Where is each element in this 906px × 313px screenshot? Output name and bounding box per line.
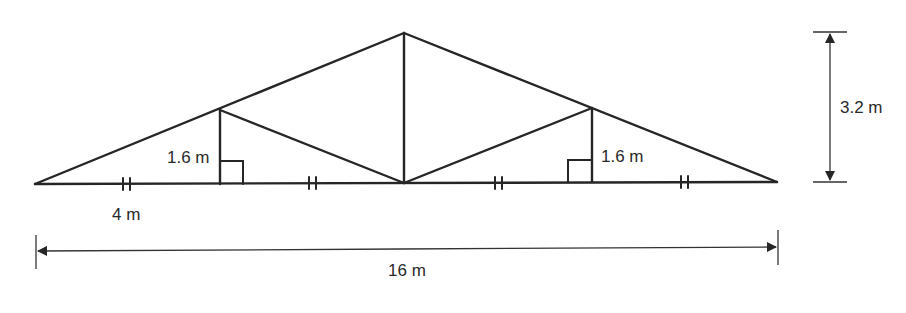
right-angle-markers [220,160,592,184]
right-vertical-label: 1.6 m [601,147,644,166]
height-label: 3.2 m [840,98,883,117]
left-right-angle-icon [220,161,243,184]
right-right-angle-icon [568,160,592,182]
truss-diagram: 1.6 m 1.6 m 4 m 16 m 3.2 m [0,0,906,313]
truss-members [220,33,592,184]
left-diagonal [220,110,404,183]
outer-triangle [35,33,777,184]
right-diagonal [404,108,592,183]
segment-label: 4 m [112,205,140,224]
left-vertical-label: 1.6 m [167,148,210,167]
span-label: 16 m [388,261,426,280]
